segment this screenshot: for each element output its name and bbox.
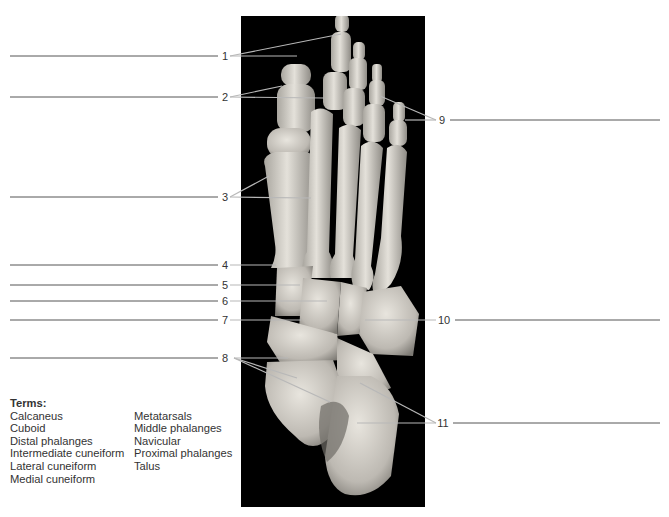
term-item: Middle phalanges xyxy=(134,422,232,435)
label-7: 7 xyxy=(222,314,228,326)
terms-list: Terms: Calcaneus Cuboid Distal phalanges… xyxy=(10,397,240,485)
term-item: Cuboid xyxy=(10,422,134,435)
term-item: Navicular xyxy=(134,435,232,448)
term-item: Talus xyxy=(134,460,232,473)
answer-lines-right xyxy=(450,120,660,423)
term-item: Calcaneus xyxy=(10,410,134,423)
leader-lines xyxy=(230,34,436,423)
term-item: Metatarsals xyxy=(134,410,232,423)
label-5: 5 xyxy=(222,279,228,291)
answer-lines-left xyxy=(10,56,218,358)
label-9: 9 xyxy=(439,114,445,126)
term-item: Intermediate cuneiform xyxy=(10,447,134,460)
terms-column-1: Calcaneus Cuboid Distal phalanges Interm… xyxy=(10,410,134,486)
label-4: 4 xyxy=(222,259,228,271)
label-1: 1 xyxy=(222,50,228,62)
label-8: 8 xyxy=(222,352,228,364)
term-item: Lateral cuneiform xyxy=(10,460,134,473)
label-6: 6 xyxy=(222,295,228,307)
term-item: Medial cuneiform xyxy=(10,473,134,486)
label-3: 3 xyxy=(222,191,228,203)
term-item: Distal phalanges xyxy=(10,435,134,448)
terms-title: Terms: xyxy=(10,397,240,410)
label-2: 2 xyxy=(222,91,228,103)
terms-column-2: Metatarsals Middle phalanges Navicular P… xyxy=(134,410,232,486)
label-11: 11 xyxy=(437,417,448,429)
term-item: Proximal phalanges xyxy=(134,447,232,460)
label-10: 10 xyxy=(438,314,450,326)
